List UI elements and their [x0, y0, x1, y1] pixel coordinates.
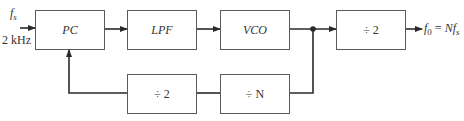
feedback-divide-by-2-block: ÷ 2: [127, 74, 197, 114]
output-label: f0 = Nfs: [424, 21, 459, 37]
junction-dot: [310, 26, 316, 32]
vco-block: VCO: [220, 10, 290, 50]
input-symbol: fs: [10, 6, 17, 22]
divide-by-n-block: ÷ N: [220, 74, 290, 114]
low-pass-filter-label: LPF: [151, 23, 172, 38]
output-divide-by-2-label: ÷ 2: [363, 23, 379, 38]
output-divide-by-2-block: ÷ 2: [336, 10, 406, 50]
feedback-divide-by-2-label: ÷ 2: [154, 87, 170, 102]
vco-label: VCO: [243, 23, 267, 38]
low-pass-filter-block: LPF: [127, 10, 197, 50]
divide-by-n-label: ÷ N: [246, 87, 264, 102]
feedback-branch-line: [290, 29, 313, 93]
input-frequency: 2 kHz: [2, 33, 31, 48]
phase-comparator-label: PC: [62, 23, 77, 38]
phase-comparator-block: PC: [35, 10, 105, 50]
feedback-to-pc-arrow: [69, 50, 127, 93]
